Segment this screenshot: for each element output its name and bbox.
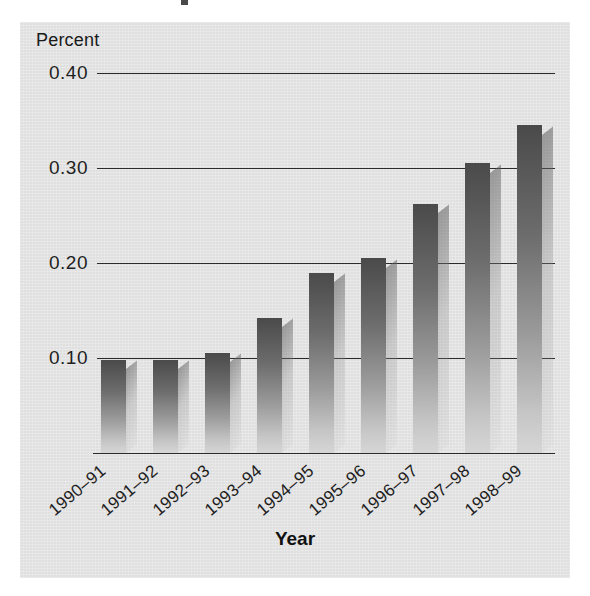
y-tick-label-0.10: 0.10 (28, 347, 88, 369)
cropped-title-fragment (181, 0, 188, 5)
bar-1990-91 (101, 360, 126, 453)
gridline-0.40 (97, 73, 555, 74)
bar-1998-99 (517, 125, 542, 453)
bar-1997-98 (465, 163, 490, 453)
chart-figure: Percent 0.40 0.30 0.20 0.10 1990–91 1991… (0, 0, 590, 596)
y-tick-label-0.20: 0.20 (28, 252, 88, 274)
bar-1996-97 (413, 204, 438, 453)
x-axis-title: Year (0, 528, 590, 550)
y-axis-title: Percent (36, 30, 99, 51)
y-tick-label-0.30: 0.30 (28, 157, 88, 179)
x-axis-line (93, 453, 555, 454)
bar-1992-93 (205, 353, 230, 453)
bar-1994-95 (309, 273, 334, 453)
bar-1991-92 (153, 360, 178, 453)
bar-1995-96 (361, 258, 386, 453)
y-tick-label-0.40: 0.40 (28, 62, 88, 84)
bar-1993-94 (257, 318, 282, 453)
